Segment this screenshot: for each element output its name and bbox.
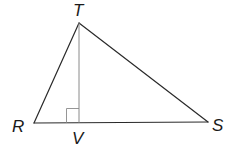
triangle-diagram: T R V S xyxy=(0,0,245,146)
label-R: R xyxy=(12,117,24,136)
label-V: V xyxy=(72,129,85,146)
segment-TS xyxy=(79,23,208,122)
segment-RS xyxy=(34,122,208,123)
label-T: T xyxy=(73,1,85,20)
segment-RT xyxy=(34,23,79,123)
label-S: S xyxy=(212,116,224,135)
right-angle-marker xyxy=(67,109,80,123)
